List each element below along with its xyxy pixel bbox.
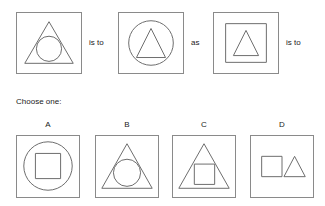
triangle-shape bbox=[284, 156, 305, 176]
option-a-figure bbox=[17, 136, 79, 197]
triangle-shape bbox=[25, 22, 73, 64]
option-label-a: A bbox=[16, 120, 80, 130]
connector-is-to-2: is to bbox=[286, 38, 301, 48]
panel-2-figure bbox=[119, 13, 183, 73]
option-label-b: B bbox=[95, 120, 159, 130]
option-b-choice[interactable] bbox=[95, 135, 159, 198]
panel-3-figure bbox=[214, 13, 278, 73]
option-d-choice[interactable] bbox=[250, 135, 314, 198]
connector-as: as bbox=[191, 38, 199, 48]
triangle-shape bbox=[102, 144, 152, 189]
square-shape bbox=[35, 153, 60, 178]
triangle-shape bbox=[233, 30, 258, 55]
circle-shape bbox=[36, 36, 61, 61]
sequence-panel-1 bbox=[16, 12, 82, 74]
square-shape bbox=[194, 164, 214, 184]
panel-1-figure bbox=[17, 13, 81, 73]
option-label-c: C bbox=[172, 120, 236, 130]
connector-is-to-1: is to bbox=[89, 38, 104, 48]
circle-shape bbox=[113, 159, 140, 186]
option-b-figure bbox=[96, 136, 158, 197]
circle-shape bbox=[24, 142, 72, 190]
square-shape bbox=[262, 156, 282, 176]
option-c-figure bbox=[173, 136, 235, 197]
triangle-shape bbox=[179, 144, 229, 189]
option-d-figure bbox=[251, 136, 313, 197]
option-label-d: D bbox=[250, 120, 314, 130]
triangle-shape bbox=[136, 28, 165, 57]
sequence-panel-2 bbox=[118, 12, 184, 74]
option-a-choice[interactable] bbox=[16, 135, 80, 198]
choose-one-prompt: Choose one: bbox=[16, 97, 61, 107]
sequence-panel-3 bbox=[213, 12, 279, 74]
option-c-choice[interactable] bbox=[172, 135, 236, 198]
analogy-puzzle: is to as is to Choose one: A B C D bbox=[0, 0, 325, 206]
